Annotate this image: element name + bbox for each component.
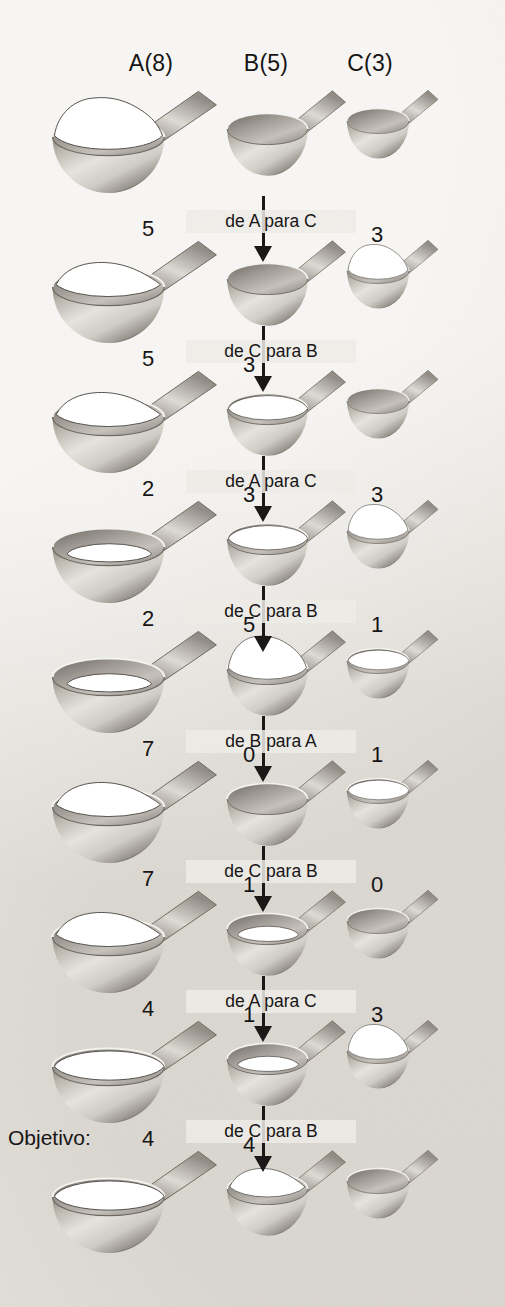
transition-step: de A para C	[186, 196, 356, 268]
arrow-down-icon	[254, 246, 272, 262]
amount-label-a: 4	[128, 996, 168, 1022]
arrow-down-icon	[254, 376, 272, 392]
scoop-b[interactable]	[218, 88, 348, 180]
column-header-b: B(5)	[218, 50, 314, 77]
amount-label-b: 5	[232, 612, 266, 638]
transition-label: de B para A	[186, 730, 356, 753]
amount-label-c: 3	[360, 482, 394, 508]
arrow-down-icon	[254, 766, 272, 782]
column-headers: A(8)B(5)C(3)	[0, 50, 505, 80]
transition-label: de C para B	[186, 340, 356, 363]
transition-step: de A para C	[186, 456, 356, 528]
transition-step: de C para B	[186, 1106, 356, 1178]
transition-label: de A para C	[186, 210, 356, 233]
amount-label-a: 7	[128, 866, 168, 892]
amount-label-b: 1	[232, 1002, 266, 1028]
arrow-down-icon	[254, 506, 272, 522]
transition-label: de A para C	[186, 990, 356, 1013]
amount-label-c: 3	[360, 1002, 394, 1028]
transition-label: de C para B	[186, 860, 356, 883]
amount-label-a: 2	[128, 476, 168, 502]
amount-label-b: 1	[232, 872, 266, 898]
transition-label: de C para B	[186, 1120, 356, 1143]
amount-label-a: 7	[128, 736, 168, 762]
transition-step: de C para B	[186, 846, 356, 918]
transition-label: de C para B	[186, 600, 356, 623]
amount-label-c: 1	[360, 742, 394, 768]
transition-step: de C para B	[186, 586, 356, 658]
scoop-c-graphic	[340, 88, 440, 162]
transition-label: de A para C	[186, 470, 356, 493]
amount-label-b: 4	[232, 1132, 266, 1158]
amount-label-a: 5	[128, 346, 168, 372]
amount-label-b: 3	[232, 482, 266, 508]
scoop-c[interactable]	[340, 88, 440, 162]
amount-label-a: 4	[128, 1126, 168, 1152]
scoop-a-graphic	[40, 88, 220, 198]
scoop-a[interactable]	[40, 88, 220, 198]
amount-label-c: 0	[360, 872, 394, 898]
amount-label-c: 3	[360, 222, 394, 248]
arrow-down-icon	[254, 1026, 272, 1042]
arrow-down-icon	[254, 1156, 272, 1172]
state-row	[0, 88, 505, 198]
transition-step: de C para B	[186, 326, 356, 398]
arrow-down-icon	[254, 896, 272, 912]
puzzle-diagram: A(8)B(5)C(3)535323325170171041344Objetiv…	[0, 0, 505, 1307]
amount-label-b: 3	[232, 352, 266, 378]
transition-step: de A para C	[186, 976, 356, 1048]
scoop-b-graphic	[218, 88, 348, 180]
column-header-a: A(8)	[96, 50, 206, 77]
amount-label-c: 1	[360, 612, 394, 638]
amount-label-a: 2	[128, 606, 168, 632]
amount-label-b: 0	[232, 742, 266, 768]
amount-label-a: 5	[128, 216, 168, 242]
transition-step: de B para A	[186, 716, 356, 788]
column-header-c: C(3)	[322, 50, 418, 77]
goal-label: Objetivo:	[8, 1126, 91, 1150]
arrow-down-icon	[254, 636, 272, 652]
